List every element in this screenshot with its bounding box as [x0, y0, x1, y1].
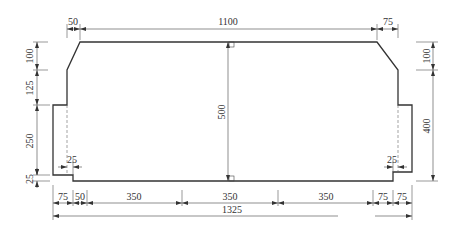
dim-bottom-2: 50 — [75, 191, 85, 202]
dim-right-lower-height: 400 — [421, 119, 432, 134]
section-outline — [53, 42, 412, 181]
center-dimension: 500 — [216, 42, 234, 181]
left-dimensions: 100 125 250 25 — [24, 42, 50, 188]
dim-left-inner-step: 25 — [67, 154, 77, 165]
right-dimensions: 100 400 — [416, 42, 438, 181]
dim-bottom-7: 75 — [397, 191, 407, 202]
bottom-dimensions: 75 50 350 350 350 75 75 1325 — [53, 185, 412, 220]
dim-bottom-3: 350 — [127, 191, 142, 202]
top-dimensions: 50 1100 75 — [67, 16, 398, 40]
dim-left-lower-height: 250 — [24, 134, 35, 149]
dim-left-middle-height: 125 — [24, 81, 35, 96]
dim-top-left-offset: 50 — [68, 16, 78, 27]
dim-left-slope-height: 100 — [24, 49, 35, 64]
inner-step-dimensions: 25 25 — [58, 154, 407, 175]
dim-right-inner-step: 25 — [387, 154, 397, 165]
dim-right-slope-height: 100 — [421, 49, 432, 64]
section-drawing: 50 1100 75 100 125 250 25 100 400 500 — [0, 0, 460, 235]
dim-left-bottom-step: 25 — [24, 174, 35, 184]
dim-bottom-5: 350 — [319, 191, 334, 202]
dim-total-height: 500 — [216, 105, 227, 120]
dim-top-right-offset: 75 — [383, 16, 393, 27]
dim-bottom-4: 350 — [223, 191, 238, 202]
dim-overall-width: 1325 — [222, 204, 242, 215]
dim-bottom-1: 75 — [58, 191, 68, 202]
dim-bottom-6: 75 — [378, 191, 388, 202]
dim-top-width: 1100 — [218, 16, 238, 27]
